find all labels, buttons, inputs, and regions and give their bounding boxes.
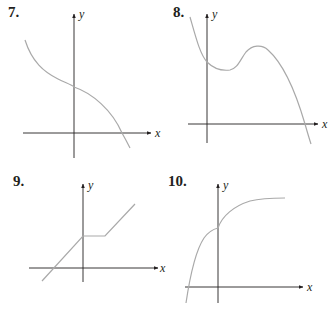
panel-number: 9. [13, 173, 25, 189]
x-axis-label: x [321, 117, 328, 131]
panel-10: 10. y x [168, 173, 313, 303]
y-axis-label: y [222, 178, 229, 192]
x-axis-label: x [154, 126, 161, 140]
y-axis-label: y [87, 178, 94, 192]
panel-number: 7. [8, 4, 20, 20]
panel-9: 9. y x [13, 173, 166, 282]
panel-number: 8. [173, 4, 185, 20]
panel-7: 7. y x [8, 4, 161, 158]
function-curve [25, 40, 130, 148]
y-axis-label: y [78, 7, 85, 21]
x-axis-label: x [306, 280, 313, 294]
function-curve [42, 204, 135, 281]
panel-number: 10. [168, 173, 187, 189]
y-axis-label: y [211, 7, 218, 21]
graphs-figure: 7. y x 8. y x 9. y x 10. y x [0, 0, 330, 311]
function-curve [190, 17, 311, 144]
panel-8: 8. y x [173, 4, 328, 144]
x-axis-label: x [159, 261, 166, 275]
